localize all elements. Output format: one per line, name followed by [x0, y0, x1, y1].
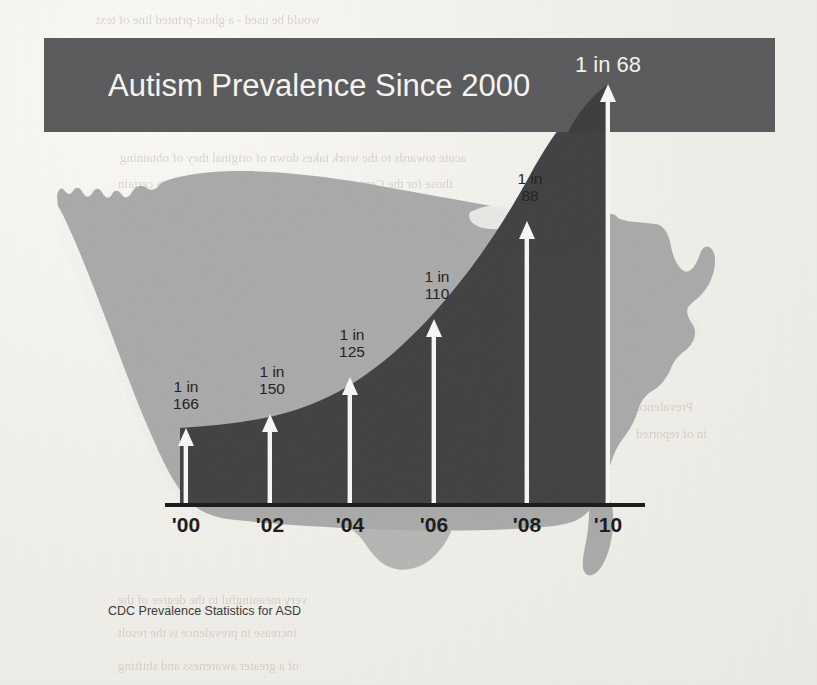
x-tick-2000: '00 [172, 513, 200, 536]
label-2002-line1: 1 in [260, 363, 285, 380]
x-tick-2002: '02 [256, 513, 284, 536]
label-2004-line1: 1 in [340, 326, 365, 343]
label-2000-line1: 1 in [174, 378, 199, 395]
label-2002: 1 in 150 [259, 363, 285, 397]
x-tick-2008: '08 [513, 513, 542, 536]
label-2006-line1: 1 in [425, 268, 450, 285]
x-tick-2004: '04 [336, 513, 365, 536]
label-2008-line1: 1 in [518, 170, 543, 187]
label-2006: 1 in 110 [425, 268, 450, 302]
label-2002-line2: 150 [259, 380, 285, 397]
peak-callout-label: 1 in 68 [575, 52, 641, 77]
label-2000-line2: 166 [173, 395, 199, 412]
label-2004: 1 in 125 [339, 326, 365, 360]
autism-prevalence-infographic: Autism Prevalence Since 2000 1 in 68 [0, 0, 817, 685]
chart-title: Autism Prevalence Since 2000 [108, 68, 530, 103]
x-tick-2006: '06 [420, 513, 448, 536]
label-2006-line2: 110 [425, 285, 450, 302]
source-note: CDC Prevalence Statistics for ASD [108, 604, 301, 618]
x-tick-2010: '10 [594, 513, 622, 536]
x-axis [165, 503, 645, 507]
label-2000: 1 in 166 [173, 378, 199, 412]
label-2004-line2: 125 [339, 343, 365, 360]
label-2008-line2: 88 [521, 187, 538, 204]
